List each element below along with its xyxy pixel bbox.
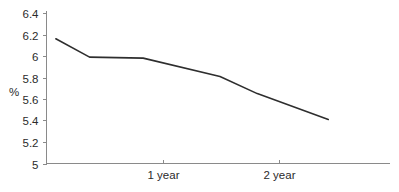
y-tick-label: 5.4 [23, 115, 40, 127]
chart-canvas: 55.25.45.65.866.26.4 1 year2 year % [0, 0, 399, 192]
x-axis-tick-labels: 1 year2 year [148, 169, 296, 181]
y-axis-title: % [9, 86, 19, 98]
y-tick-label: 5.2 [23, 137, 39, 149]
x-tick-label: 1 year [148, 169, 180, 181]
y-tick-label: 6.4 [23, 8, 40, 20]
y-tick-label: 6.2 [23, 30, 39, 42]
x-axis-ticks [164, 160, 280, 164]
y-tick-label: 5 [32, 159, 38, 171]
data-series-line [56, 39, 328, 120]
series-group [56, 39, 328, 120]
y-tick-label: 6 [32, 51, 38, 63]
y-tick-label: 5.6 [23, 94, 39, 106]
x-tick-label: 2 year [264, 169, 296, 181]
y-axis-ticks [43, 14, 47, 165]
y-axis-tick-labels: 55.25.45.65.866.26.4 [23, 8, 40, 171]
y-tick-label: 5.8 [23, 73, 39, 85]
line-chart: 55.25.45.65.866.26.4 1 year2 year % [0, 0, 399, 192]
